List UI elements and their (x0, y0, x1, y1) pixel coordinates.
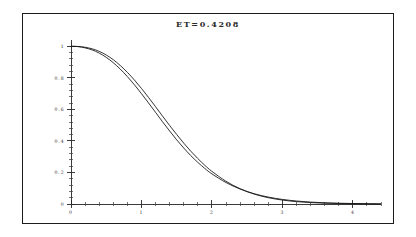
x-tick-label: 1 (140, 210, 144, 215)
tick-marks-group (67, 46, 381, 207)
y-tick-label: 0 (61, 202, 65, 207)
y-tick-label: 0.4 (54, 139, 64, 144)
curve-lower (71, 46, 381, 204)
tick-labels-group: 0123400.20.40.60.81 (54, 44, 354, 215)
line-chart: 0123400.20.40.60.81 (23, 14, 395, 225)
y-tick-label: 0.6 (54, 107, 64, 112)
x-tick-label: 0 (69, 210, 73, 215)
figure-frame: ET=0.4208 0123400.20.40.60.81 (22, 13, 394, 224)
x-tick-label: 3 (280, 210, 284, 215)
y-tick-label: 1 (61, 44, 65, 49)
axes-group (71, 40, 381, 204)
y-tick-label: 0.8 (54, 76, 64, 81)
y-tick-label: 0.2 (54, 170, 64, 175)
figure-page: ET=0.4208 0123400.20.40.60.81 (0, 0, 416, 237)
curve-upper (71, 46, 381, 204)
x-tick-label: 4 (351, 210, 355, 215)
x-tick-label: 2 (210, 210, 214, 215)
data-curves-group (71, 46, 381, 204)
